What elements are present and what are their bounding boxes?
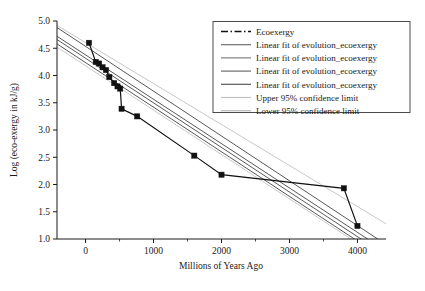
data-point-marker xyxy=(192,153,197,158)
y-axis-tick-labels: 1.01.52.02.53.03.54.04.55.0 xyxy=(38,16,50,244)
data-point-marker xyxy=(119,106,124,111)
y-tick-label: 3.5 xyxy=(38,98,50,108)
y-tick-label: 1.5 xyxy=(38,207,50,217)
y-axis-title: Log (eco-exergy in kJ/g) xyxy=(9,83,20,177)
y-tick-label: 5.0 xyxy=(38,16,50,26)
chart-figure: 1.01.52.02.53.03.54.04.55.0 010002000300… xyxy=(0,0,425,291)
legend-label: Linear fit of evolution_ecoexergy xyxy=(256,53,378,63)
y-tick-label: 3.0 xyxy=(38,125,50,135)
x-axis-ticks xyxy=(86,239,358,243)
chart-legend: EcoexergyLinear fit of evolution_ecoexer… xyxy=(213,22,410,116)
x-tick-label: 3000 xyxy=(280,246,299,256)
y-tick-label: 1.0 xyxy=(38,234,50,244)
x-tick-label: 2000 xyxy=(212,246,231,256)
legend-label: Lower 95% confidence limit xyxy=(256,106,360,116)
y-tick-label: 2.5 xyxy=(38,153,50,163)
y-axis-ticks xyxy=(53,21,57,239)
data-point-marker xyxy=(355,223,360,228)
legend-label: Linear fit of evolution_ecoexergy xyxy=(256,40,378,50)
data-point-marker xyxy=(135,114,140,119)
data-point-marker xyxy=(86,40,91,45)
legend-label: Linear fit of evolution_ecoexergy xyxy=(256,66,378,76)
x-axis-tick-labels: 01000200030004000 xyxy=(83,246,367,256)
legend-label: Ecoexergy xyxy=(256,27,295,37)
y-tick-label: 2.0 xyxy=(38,180,50,190)
x-tick-label: 4000 xyxy=(348,246,367,256)
data-point-marker xyxy=(103,67,108,72)
y-tick-label: 4.0 xyxy=(38,71,50,81)
legend-label: Upper 95% confidence limit xyxy=(256,93,359,103)
x-tick-label: 0 xyxy=(83,246,88,256)
data-point-marker xyxy=(118,86,123,91)
data-point-marker xyxy=(341,186,346,191)
chart-canvas: 1.01.52.02.53.03.54.04.55.0 010002000300… xyxy=(0,0,425,291)
legend-label: Linear fit of evolution_ecoexergy xyxy=(256,80,378,90)
y-tick-label: 4.5 xyxy=(38,44,50,54)
data-point-marker xyxy=(107,75,112,80)
x-tick-label: 1000 xyxy=(144,246,163,256)
x-axis-title: Millions of Years Ago xyxy=(179,261,263,271)
data-point-marker xyxy=(219,172,224,177)
